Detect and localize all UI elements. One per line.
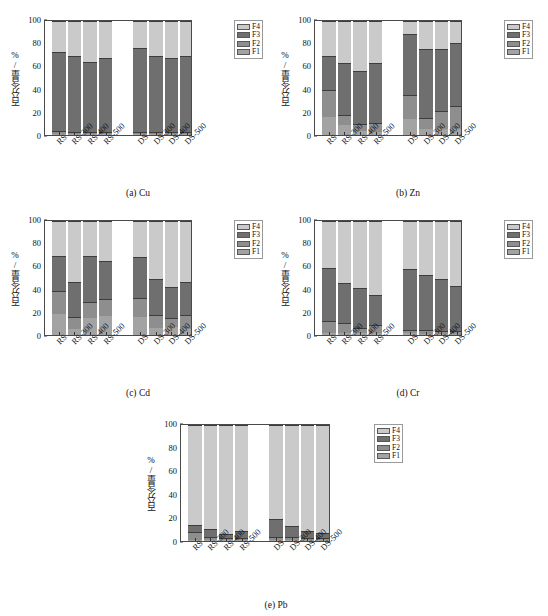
legend-row-F4: F4 <box>507 223 530 230</box>
y-tick-labels-e: 020406080100 <box>159 424 179 542</box>
segment-F3 <box>338 283 352 323</box>
y-tick-label: 20 <box>303 109 312 118</box>
y-tick-label: 40 <box>303 85 312 94</box>
legend-label-F3: F3 <box>522 31 530 39</box>
segment-F4 <box>369 21 383 63</box>
segment-F4 <box>83 21 97 62</box>
segment-F4 <box>180 21 192 56</box>
segment-F4 <box>133 21 147 48</box>
y-tick-label: 20 <box>169 514 178 523</box>
segment-F2 <box>83 302 97 318</box>
y-tick-label: 0 <box>173 538 177 547</box>
legend-label-F1: F1 <box>522 248 530 256</box>
segment-F4 <box>322 221 336 268</box>
bar-DS-500 <box>450 221 462 335</box>
segment-F3 <box>353 71 367 124</box>
y-tick-label: 60 <box>303 62 312 71</box>
y-tick-label: 20 <box>33 109 42 118</box>
y-axis-title-b: 百分含量/% <box>278 20 292 136</box>
legend-label-F2: F2 <box>522 240 530 248</box>
segment-F4 <box>435 21 449 49</box>
legend-row-F2: F2 <box>237 240 260 247</box>
legend-label-F4: F4 <box>522 223 530 231</box>
segment-F3 <box>99 261 113 299</box>
legend-label-F2: F2 <box>522 40 530 48</box>
bar-RS <box>52 21 66 135</box>
segment-F4 <box>450 21 462 43</box>
bar-RS <box>188 425 202 541</box>
segment-F4 <box>133 221 147 257</box>
plot-area-b <box>314 20 462 136</box>
legend-row-F4: F4 <box>377 427 400 434</box>
bar-RS-400 <box>353 21 367 135</box>
segment-F4 <box>165 221 179 287</box>
y-tick-label: 100 <box>298 16 311 25</box>
panel-inner-d: 百分含量/%020406080100RSRS-300RS-400RS-500DS… <box>272 206 544 404</box>
segment-F4 <box>435 221 449 279</box>
segment-F4 <box>269 425 283 519</box>
legend-d: F4F3F2F1 <box>504 220 533 259</box>
legend-row-F1: F1 <box>507 49 530 56</box>
legend-label-F3: F3 <box>522 231 530 239</box>
bar-DS-400 <box>435 221 449 335</box>
segment-F3 <box>188 525 202 532</box>
legend-label-F1: F1 <box>252 248 260 256</box>
legend-swatch-F1 <box>377 453 390 459</box>
legend-label-F1: F1 <box>392 452 400 460</box>
y-tick-label: 100 <box>164 420 177 429</box>
segment-F4 <box>419 221 433 275</box>
y-axis-title-e: 百分含量/% <box>144 424 158 542</box>
legend-label-F2: F2 <box>252 40 260 48</box>
panel-caption-c: (c) Cd <box>2 388 274 398</box>
segment-F2 <box>52 291 66 314</box>
segment-F4 <box>165 21 179 58</box>
bar-DS <box>133 221 147 335</box>
plot-area-a <box>44 20 192 136</box>
y-axis-title-c: 百分含量/% <box>8 220 22 336</box>
segment-F3 <box>403 269 417 330</box>
legend-row-F2: F2 <box>377 444 400 451</box>
legend-swatch-F1 <box>507 49 520 55</box>
segment-F2 <box>99 299 113 316</box>
panel-inner-a: 百分含量/%020406080100RSRS-300RS-400RS-500DS… <box>2 6 274 204</box>
legend-swatch-F4 <box>237 24 250 30</box>
y-tick-labels-c: 020406080100 <box>23 220 43 336</box>
y-tick-label: 60 <box>303 262 312 271</box>
segment-F4 <box>149 221 163 279</box>
bar-RS-500 <box>235 425 249 541</box>
bar-RS-500 <box>369 221 383 335</box>
bar-DS <box>133 21 147 135</box>
bar-RS-400 <box>353 221 367 335</box>
segment-F4 <box>52 21 66 52</box>
bar-RS-500 <box>99 21 113 135</box>
bar-RS-300 <box>68 21 82 135</box>
segment-F3 <box>338 63 352 115</box>
legend-row-F2: F2 <box>507 40 530 47</box>
bar-RS-300 <box>338 221 352 335</box>
panel-caption-b: (b) Zn <box>272 188 544 198</box>
y-tick-label: 0 <box>37 332 41 341</box>
segment-F4 <box>99 21 113 58</box>
bar-RS-400 <box>219 425 233 541</box>
legend-row-F3: F3 <box>237 232 260 239</box>
legend-swatch-F3 <box>237 32 250 38</box>
y-tick-labels-b: 020406080100 <box>293 20 313 136</box>
legend-row-F3: F3 <box>507 232 530 239</box>
legend-c: F4F3F2F1 <box>234 220 263 259</box>
bar-RS <box>52 221 66 335</box>
chart-panel-a: 百分含量/%020406080100RSRS-300RS-400RS-500DS… <box>2 6 274 204</box>
y-axis-title-a: 百分含量/% <box>8 20 22 136</box>
legend-b: F4F3F2F1 <box>504 20 533 59</box>
legend-row-F4: F4 <box>237 23 260 30</box>
segment-F3 <box>68 282 82 317</box>
panel-inner-b: 百分含量/%020406080100RSRS-300RS-400RS-500DS… <box>272 6 544 204</box>
segment-F4 <box>188 425 202 525</box>
segment-F4 <box>204 425 218 529</box>
segment-F3 <box>165 287 179 319</box>
segment-F3 <box>68 56 82 132</box>
bar-DS-400 <box>435 21 449 135</box>
y-tick-label: 0 <box>307 132 311 141</box>
bar-RS <box>322 221 336 335</box>
segment-F4 <box>99 221 113 261</box>
bar-RS-500 <box>99 221 113 335</box>
